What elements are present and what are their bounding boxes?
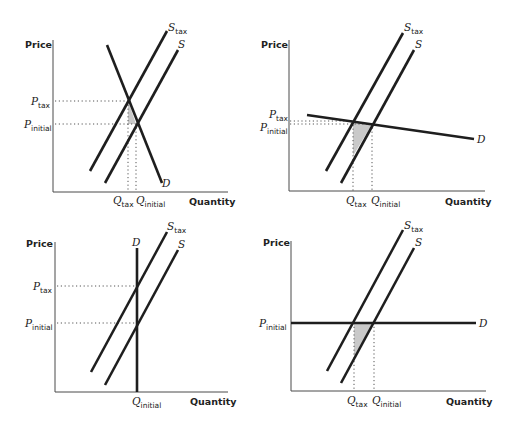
demand-label: D <box>478 317 488 329</box>
supply-curve <box>105 250 178 385</box>
p-initial-label: Pinitial <box>259 121 288 136</box>
q-initial-label: Qinitial <box>132 395 161 410</box>
p-initial-label: Pinitial <box>258 317 287 332</box>
panel-top-right: Price Quantity Stax S D Ptax Pinitial Qt… <box>259 21 492 209</box>
y-axis-label: Price <box>263 237 290 248</box>
panel-bottom-left: Price Quantity Stax S D Ptax Pinitial Qi… <box>24 220 237 410</box>
demand-curve <box>307 115 474 139</box>
supply-curve <box>341 50 414 183</box>
supply-label: S <box>178 38 185 50</box>
supply-tax-curve <box>327 230 403 371</box>
p-tax-label: Ptax <box>268 108 289 123</box>
supply-tax-label: Stax <box>404 21 424 36</box>
tax-incidence-figure: Price Quantity Stax S D Ptax Pinitial Qt… <box>0 0 506 427</box>
p-initial-label: Pinitial <box>24 317 53 332</box>
q-initial-label: Qinitial <box>372 394 401 409</box>
axes <box>291 241 486 391</box>
q-initial-label: Qinitial <box>371 194 400 209</box>
panel-bottom-right: Price Quantity Stax S D Pinitial Qtax Qi… <box>258 219 493 409</box>
supply-tax-curve <box>326 33 403 171</box>
demand-label: D <box>476 133 486 145</box>
supply-tax-label: Stax <box>167 220 187 235</box>
p-tax-label: Ptax <box>32 280 53 295</box>
q-tax-label: Qtax <box>346 194 367 209</box>
x-axis-label: Quantity <box>446 396 493 407</box>
p-tax-label: Ptax <box>30 95 51 110</box>
supply-curve <box>341 248 414 383</box>
q-initial-label: Qinitial <box>136 194 165 209</box>
deadweight-loss-area <box>353 121 372 156</box>
panel-top-left: Price Quantity Stax S D Ptax Pinitial Qt… <box>23 21 236 209</box>
demand-label: D <box>131 236 141 248</box>
p-initial-label: Pinitial <box>23 118 52 133</box>
supply-tax-label: Stax <box>168 21 188 36</box>
supply-tax-label: Stax <box>404 219 424 234</box>
y-axis-label: Price <box>26 238 53 249</box>
supply-label: S <box>415 236 422 248</box>
supply-tax-curve <box>91 232 167 372</box>
q-tax-label: Qtax <box>113 194 134 209</box>
x-axis-label: Quantity <box>189 196 236 207</box>
x-axis-label: Quantity <box>190 396 237 407</box>
q-tax-label: Qtax <box>347 394 368 409</box>
x-axis-label: Quantity <box>445 196 492 207</box>
supply-label: S <box>415 38 422 50</box>
y-axis-label: Price <box>261 39 288 50</box>
demand-label: D <box>161 177 171 189</box>
supply-label: S <box>178 238 185 250</box>
y-axis-label: Price <box>25 39 52 50</box>
